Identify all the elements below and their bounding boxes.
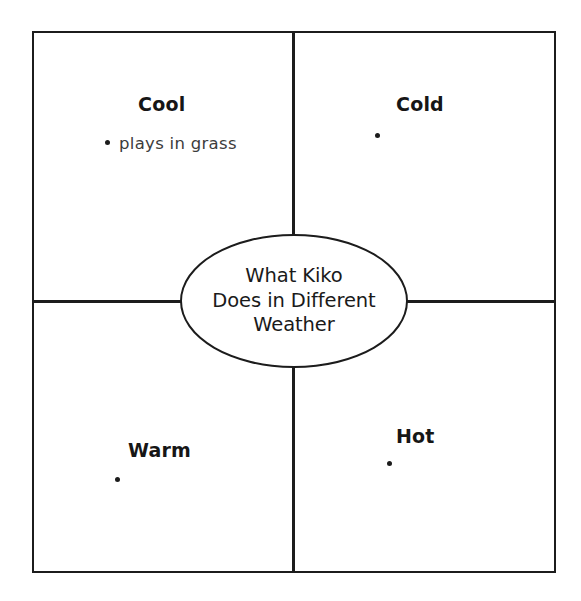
- quadrant-heading-warm: Warm: [128, 439, 191, 461]
- center-topic-node[interactable]: What Kiko Does in Different Weather: [180, 234, 408, 368]
- center-topic-label: What Kiko Does in Different Weather: [202, 264, 385, 337]
- bullet-dot-icon: [375, 133, 380, 138]
- center-topic-line-3: Weather: [212, 313, 375, 337]
- bullet-item-cold-1[interactable]: [375, 137, 389, 142]
- quadrant-heading-hot: Hot: [396, 425, 435, 447]
- graphic-organizer: Cool plays in grass Cold Warm Hot What K…: [0, 0, 581, 601]
- bullet-dot-icon: [105, 140, 110, 145]
- bullet-dot-icon: [115, 477, 120, 482]
- quadrant-heading-cool: Cool: [138, 93, 185, 115]
- bullet-text-cool-1: plays in grass: [119, 134, 237, 153]
- bullet-item-warm-1[interactable]: [115, 481, 129, 486]
- center-topic-line-2: Does in Different: [212, 289, 375, 313]
- quadrant-heading-cold: Cold: [396, 93, 444, 115]
- bullet-item-hot-1[interactable]: [387, 465, 401, 470]
- bullet-dot-icon: [387, 461, 392, 466]
- bullet-item-cool-1[interactable]: plays in grass: [105, 134, 237, 153]
- center-topic-line-1: What Kiko: [212, 264, 375, 288]
